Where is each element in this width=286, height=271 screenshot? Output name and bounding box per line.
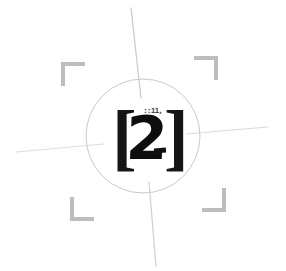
- stamped-mark: [ 2 ::11, ]: [112, 100, 180, 178]
- stamp-left-bracket: [: [112, 100, 126, 178]
- stamp-right-bracket: ]: [164, 100, 178, 178]
- corner-bracket-top-left-icon: [63, 64, 85, 86]
- registration-target-image: [ 2 ::11, ]: [0, 0, 286, 271]
- crosshair-horizontal-right-line: [186, 127, 268, 134]
- crosshair-vertical-bottom-line: [149, 182, 156, 266]
- corner-bracket-bottom-left-icon: [72, 197, 94, 219]
- stamp-digit: 2: [125, 108, 167, 172]
- corner-bracket-top-right-icon: [194, 58, 216, 80]
- corner-bracket-bottom-right-icon: [202, 188, 224, 210]
- crosshair-vertical-top-line: [131, 8, 141, 98]
- crosshair-horizontal-left-line: [16, 144, 104, 152]
